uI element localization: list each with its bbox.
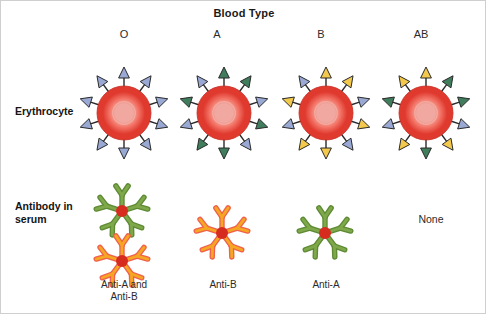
antigen-arrow-icon (282, 97, 294, 107)
column-header-a: A (187, 28, 247, 40)
antigen-arrow-icon (399, 138, 410, 150)
antigen-arrow-icon (140, 76, 151, 88)
antibody-none-label-ab: None (391, 213, 471, 225)
antigen-arrow-icon (382, 97, 394, 107)
antigen-arrow-icon (240, 76, 251, 88)
erythrocyte-cell-b (276, 63, 376, 163)
column-header-ab: AB (391, 28, 451, 40)
red-blood-cell-icon (299, 86, 353, 140)
antigen-arrow-icon (80, 97, 92, 107)
antigen-arrow-icon (219, 67, 230, 78)
antigen-arrow-icon (358, 97, 370, 107)
antigen-arrow-icon (458, 119, 470, 129)
antigen-arrow-icon (299, 138, 310, 150)
erythrocyte-cell-a (174, 63, 274, 163)
antigen-arrow-icon (442, 76, 453, 88)
red-blood-cell-icon (97, 86, 151, 140)
antigen-arrow-icon (197, 76, 208, 88)
column-header-o: O (94, 28, 154, 40)
antibody-anti-b-a (186, 197, 260, 267)
antigen-arrow-icon (119, 148, 130, 159)
antigen-arrow-icon (421, 67, 432, 78)
page-title: Blood Type (1, 7, 486, 19)
antigen-arrow-icon (219, 148, 230, 159)
antigen-arrow-icon (399, 76, 410, 88)
antibody-caption-o: Anti-A and Anti-B (79, 279, 169, 303)
antigen-arrow-icon (97, 138, 108, 150)
antigen-arrow-icon (97, 76, 108, 88)
antigen-arrow-icon (140, 138, 151, 150)
antigen-arrow-icon (382, 119, 394, 129)
antigen-arrow-icon (358, 119, 370, 129)
antigen-arrow-icon (342, 76, 353, 88)
antibody-star-icon (289, 197, 361, 269)
antibody-caption-b: Anti-A (281, 279, 371, 291)
row-label-antibody: Antibody in serum (15, 200, 93, 225)
erythrocyte-cell-o (74, 63, 174, 163)
antigen-arrow-icon (80, 119, 92, 129)
antibody-caption-a: Anti-B (178, 279, 268, 291)
antigen-arrow-icon (342, 138, 353, 150)
antigen-arrow-icon (180, 119, 192, 129)
antigen-arrow-icon (321, 67, 332, 78)
antigen-arrow-icon (156, 119, 168, 129)
antigen-arrow-icon (299, 76, 310, 88)
antibody-anti-a-b (289, 197, 363, 267)
antigen-arrow-icon (197, 138, 208, 150)
antigen-arrow-icon (321, 148, 332, 159)
antibody-star-icon (186, 197, 258, 269)
column-header-b: B (291, 28, 351, 40)
red-blood-cell-icon (399, 86, 453, 140)
antigen-arrow-icon (421, 148, 432, 159)
red-blood-cell-icon (197, 86, 251, 140)
antigen-arrow-icon (282, 119, 294, 129)
antigen-arrow-icon (256, 119, 268, 129)
antigen-arrow-icon (119, 67, 130, 78)
antigen-arrow-icon (442, 138, 453, 150)
antigen-arrow-icon (180, 97, 192, 107)
antigen-arrow-icon (240, 138, 251, 150)
erythrocyte-cell-ab (376, 63, 476, 163)
antigen-arrow-icon (256, 97, 268, 107)
antigen-arrow-icon (156, 97, 168, 107)
antigen-arrow-icon (458, 97, 470, 107)
blood-type-diagram: Blood Type O A B AB Erythrocyte Antibody… (0, 0, 486, 314)
